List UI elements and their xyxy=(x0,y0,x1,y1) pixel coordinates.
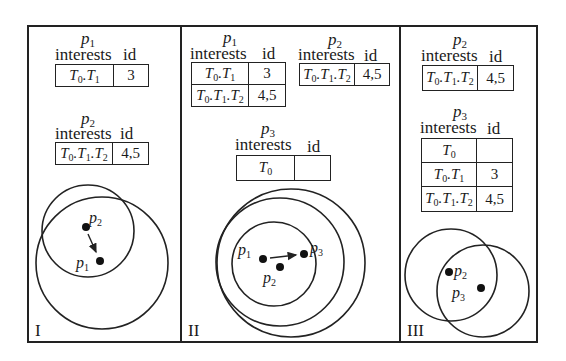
interest-table-p2: T0.T1.T2 4,5 xyxy=(299,63,390,86)
panel-numeral: II xyxy=(188,322,199,339)
header-id: id xyxy=(307,138,320,155)
interest-table-p3: T0 T0.T1 3 T0.T1.T2 4,5 xyxy=(421,138,513,212)
id-cell: 4,5 xyxy=(113,143,149,165)
header-id: id xyxy=(489,48,502,65)
id-cell: 4,5 xyxy=(355,64,390,86)
node-label-p3: p3 xyxy=(452,285,465,306)
header-id: id xyxy=(364,47,377,64)
interest-cell: T0.T1 xyxy=(192,63,249,85)
header-interests: interests xyxy=(421,47,478,64)
header-id: id xyxy=(487,120,500,137)
table-row: T0.T1.T2 4,5 xyxy=(423,66,514,91)
interest-table-p1: T0.T1 3 T0.T1.T2 4,5 xyxy=(191,62,286,107)
header-id: id xyxy=(120,125,133,142)
table-row: T0.T1.T2 4,5 xyxy=(56,143,149,165)
id-cell: 4,5 xyxy=(249,85,286,107)
id-cell: 4,5 xyxy=(477,187,513,212)
panel-numeral: III xyxy=(407,322,424,339)
header-interests: interests xyxy=(235,136,292,153)
node-label-p3: p3 xyxy=(310,240,323,261)
panel-numeral: I xyxy=(35,322,41,339)
header-interests: interests xyxy=(190,45,247,62)
interest-cell: T0.T1.T2 xyxy=(56,143,113,165)
id-cell: 3 xyxy=(114,65,149,87)
header-interests: interests xyxy=(55,46,112,63)
table-row: T0.T1.T2 4,5 xyxy=(422,187,513,212)
table-row: T0.T1 3 xyxy=(56,65,149,87)
interest-table-p2: T0.T1.T2 4,5 xyxy=(55,142,149,165)
interest-table-p2: T0.T1.T2 4,5 xyxy=(422,65,514,91)
table-row: T0.T1.T2 4,5 xyxy=(300,64,390,86)
header-id: id xyxy=(123,46,136,63)
id-cell: 4,5 xyxy=(478,66,514,91)
header-interests: interests xyxy=(420,119,477,136)
interest-table-p1: T0.T1 3 xyxy=(55,64,149,87)
node-label-p2: p2 xyxy=(263,270,276,291)
interest-cell: T0 xyxy=(237,156,295,181)
interest-table-p3: T0 xyxy=(236,155,331,181)
interest-cell: T0 xyxy=(422,139,477,163)
header-id: id xyxy=(262,45,275,62)
panel-divider-2 xyxy=(399,25,401,343)
id-cell xyxy=(477,139,513,163)
node-label-p1: p1 xyxy=(238,242,251,263)
id-cell: 3 xyxy=(477,163,513,187)
interest-cell: T0.T1.T2 xyxy=(192,85,249,107)
node-label-p1: p1 xyxy=(76,255,89,276)
node-label-p2: p2 xyxy=(454,263,467,284)
panel-divider-1 xyxy=(180,25,182,343)
node-label-p2: p2 xyxy=(89,210,102,231)
id-cell: 3 xyxy=(249,63,286,85)
header-interests: interests xyxy=(298,46,355,63)
table-row: T0.T1 3 xyxy=(192,63,286,85)
header-interests: interests xyxy=(55,125,112,142)
table-row: T0.T1 3 xyxy=(422,163,513,187)
interest-cell: T0.T1 xyxy=(56,65,114,87)
interest-cell: T0.T1.T2 xyxy=(423,66,478,91)
interest-cell: T0.T1 xyxy=(422,163,477,187)
interest-cell: T0.T1.T2 xyxy=(422,187,477,212)
table-row: T0 xyxy=(422,139,513,163)
interest-cell: T0.T1.T2 xyxy=(300,64,355,86)
table-row: T0 xyxy=(237,156,331,181)
table-row: T0.T1.T2 4,5 xyxy=(192,85,286,107)
id-cell xyxy=(295,156,331,181)
